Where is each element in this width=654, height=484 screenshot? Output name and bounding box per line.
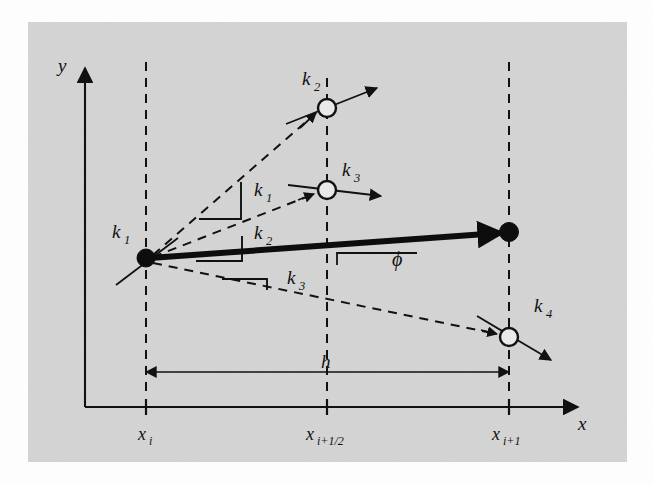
tick-xi-base: x [137,424,146,444]
k4-node-base: k [534,295,543,316]
y-axis-label: y [56,55,67,76]
runge-kutta-diagram: y x k 1 k 2 k 3 k 4 k 1 k 2 k [0,0,654,484]
k2-node-base: k [302,68,311,89]
node-k2-point [318,99,336,117]
k1-origin-base: k [112,221,121,242]
node-end-point [500,223,519,242]
k1-tri-base: k [254,179,263,200]
x-axis-label: x [577,413,587,434]
k3-tri-sub: 3 [298,279,305,293]
k3-tri-base: k [287,267,296,288]
k3-node-sub: 3 [353,171,360,185]
tick-xi1-sub: i+1 [503,434,520,448]
k1-tri-sub: 1 [266,191,272,205]
k3-node-base: k [342,159,351,180]
node-k3-point [318,181,336,199]
tick-xi-sub: i [149,434,152,448]
tick-xihalf-sub: i+1/2 [317,434,344,448]
k2-node-sub: 2 [314,80,320,94]
node-start-point [137,249,155,267]
k4-node-sub: 4 [546,307,552,321]
tick-xihalf-base: x [305,424,314,444]
h-label: h [321,351,331,372]
k1-origin-sub: 1 [124,233,130,247]
node-k4-point [500,328,518,346]
k2-tri-base: k [254,222,263,243]
k2-tri-sub: 2 [266,234,272,248]
phi-label: ϕ [392,248,402,271]
figure-container: y x k 1 k 2 k 3 k 4 k 1 k 2 k [0,0,654,484]
tick-xi1-base: x [491,424,500,444]
